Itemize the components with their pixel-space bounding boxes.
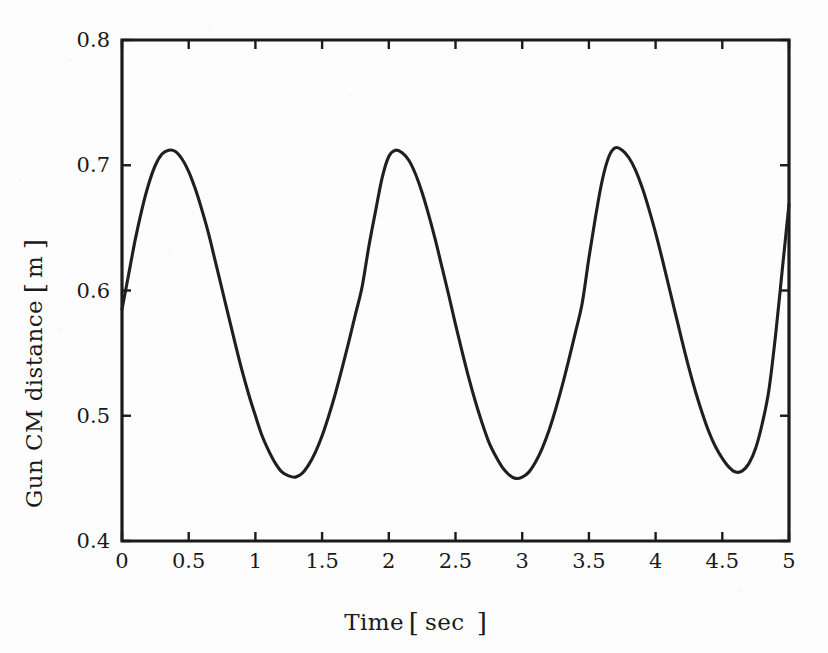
- x-tick-label: 1.5: [305, 549, 338, 573]
- y-axis-label-text: Gun CM distance: [21, 300, 47, 508]
- chart-figure: 00.511.522.533.544.55 0.40.50.60.70.8 Ti…: [0, 0, 828, 653]
- x-tick-label: 0.5: [172, 549, 205, 573]
- x-tick-label: 0: [115, 549, 128, 573]
- data-series-line: [122, 147, 789, 478]
- y-tick-label: 0.8: [77, 28, 110, 52]
- x-tick-label: 1: [249, 549, 262, 573]
- y-tick-label: 0.6: [77, 279, 110, 303]
- figure-page: 00.511.522.533.544.55 0.40.50.60.70.8 Ti…: [0, 0, 828, 653]
- x-tick-label: 5: [782, 549, 795, 573]
- x-tick-label: 2.5: [439, 549, 472, 573]
- y-tick-label: 0.5: [77, 404, 110, 428]
- chart-svg: 00.511.522.533.544.55 0.40.50.60.70.8 Ti…: [0, 0, 828, 653]
- x-axis-label-bracket-close: ]: [477, 608, 488, 638]
- x-tick-label: 4: [649, 549, 662, 573]
- y-tick-label: 0.7: [77, 153, 110, 177]
- x-tick-label: 4.5: [706, 549, 739, 573]
- x-tick-label: 3.5: [572, 549, 605, 573]
- y-axis-label-unit: m: [21, 256, 47, 278]
- y-axis-label-bracket-open: [: [20, 283, 50, 294]
- x-axis-label: Time [ sec ]: [344, 608, 487, 638]
- x-tick-label: 3: [516, 549, 529, 573]
- x-axis-tick-labels: 00.511.522.533.544.55: [115, 549, 795, 573]
- x-axis-label-text: Time: [344, 609, 404, 635]
- y-axis-label: Gun CM distance [ m ]: [20, 239, 50, 508]
- y-axis-tick-labels: 0.40.50.60.70.8: [77, 28, 110, 553]
- x-axis-label-bracket-open: [: [409, 608, 420, 638]
- y-tick-label: 0.4: [77, 529, 110, 553]
- x-tick-label: 2: [382, 549, 395, 573]
- y-axis-label-bracket-close: ]: [20, 239, 50, 250]
- x-axis-label-unit: sec: [425, 609, 465, 635]
